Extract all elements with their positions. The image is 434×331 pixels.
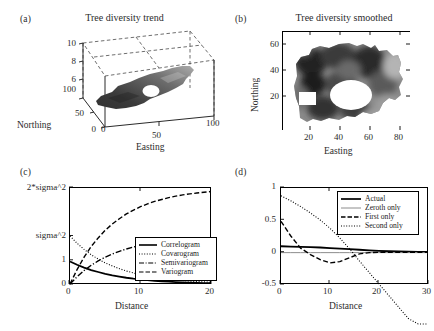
panel-b-heatmap: [283, 32, 410, 130]
legend-label: Zeroth only: [365, 203, 401, 212]
panel-b-title: Tree diversity smoothed: [269, 12, 419, 23]
panel-b-nodata-ellipse: [330, 80, 372, 110]
panel-c-legend: Correlogram Covarogram Semivariogram Var…: [135, 237, 217, 281]
panel-c-xtick-0: 0: [66, 286, 71, 296]
panel-a-ylabel: Northing: [17, 120, 51, 130]
panel-b-nodata-square: [299, 92, 316, 105]
panel-d-label: (d): [235, 167, 247, 177]
panel-d-xtick-0: 0: [277, 286, 282, 296]
panel-d-ytick-0: 0: [243, 246, 276, 256]
legend-item-actual: Actual: [340, 194, 415, 203]
panel-a-3d-plot: [0, 0, 217, 165]
panel-b-ytick-60: 60: [255, 39, 279, 49]
panel-b-ylabel: Northing: [250, 78, 260, 112]
legend-label: Semivariogram: [161, 258, 208, 267]
panel-d-xtick-20: 20: [372, 286, 381, 296]
panel-d-ytick-1: 1: [243, 181, 276, 191]
panel-d: (d) 1 0.5 0 -0.5 0 10 20 30 Distance: [217, 165, 434, 331]
legend-line-dashed: [340, 213, 362, 221]
legend-item-second-only: Second only: [340, 221, 415, 230]
panel-a-xtick-50: 50: [152, 130, 161, 140]
legend-line-solid-thin: [340, 204, 362, 212]
legend-label: Variogram: [161, 267, 193, 276]
panel-b-label: (b): [235, 14, 247, 24]
panel-b-ytick-40: 40: [255, 65, 279, 75]
legend-label: Second only: [365, 221, 403, 230]
panel-c-ytick-0: 0: [40, 278, 66, 288]
panel-d-xtick-30: 30: [422, 286, 431, 296]
panel-d-xtick-10: 10: [323, 286, 332, 296]
legend-label: Correlogram: [161, 240, 200, 249]
panel-a-xlabel: Easting: [136, 142, 165, 152]
panel-a-ztick-8: 8: [50, 56, 76, 66]
legend-line-solid: [340, 195, 362, 203]
panel-d-ytick--0.5: -0.5: [239, 278, 276, 288]
panel-b-plot-area: [282, 31, 410, 130]
legend-label: Actual: [365, 194, 385, 203]
legend-item-semivariogram: Semivariogram: [138, 258, 213, 267]
legend-item-first-only: First only: [340, 212, 415, 221]
panel-b-xlabel: Easting: [324, 146, 353, 156]
panel-d-ytick-0.5: 0.5: [243, 214, 276, 224]
panel-a-xtick-0: 0: [101, 124, 106, 134]
panel-c-ytick-1: 1: [40, 254, 66, 264]
panel-c-label: (c): [20, 167, 31, 177]
panel-b: (b) Tree diversity smoothed: [217, 0, 434, 165]
legend-label: Covarogram: [161, 249, 199, 258]
legend-item-zeroth-only: Zeroth only: [340, 203, 415, 212]
panel-a-ztick-10: 10: [50, 38, 76, 48]
legend-item-correlogram: Correlogram: [138, 240, 213, 249]
figure-canvas: (a) Tree diversity trend: [0, 0, 434, 331]
panel-c-ytick-2sigma2: 2*sigma^2: [2, 182, 66, 192]
legend-line-dashed: [138, 268, 158, 276]
panel-c-xlabel: Distance: [115, 301, 148, 311]
panel-b-xtick-20: 20: [304, 132, 313, 142]
panel-d-xlabel: Distance: [329, 301, 362, 311]
panel-a-ytick-0: 0: [72, 124, 96, 134]
legend-line-dotted: [138, 250, 158, 258]
panel-a-surface-hole: [143, 85, 160, 97]
panel-a: (a) Tree diversity trend: [0, 0, 217, 165]
panel-b-xtick-60: 60: [364, 132, 373, 142]
panel-a-ytick-100: 100: [48, 84, 76, 94]
legend-line-dotted: [340, 222, 362, 230]
legend-line-dashdot: [138, 259, 158, 267]
panel-c: (c) 2*sigma^2 sigma^2 1 0 0 10 20 Distan…: [0, 165, 217, 331]
panel-c-xtick-20: 20: [205, 286, 214, 296]
panel-b-xtick-40: 40: [334, 132, 343, 142]
panel-a-ytick-50: 50: [58, 108, 84, 118]
panel-d-legend: Actual Zeroth only First only Second onl…: [337, 191, 419, 235]
series-actual: [281, 246, 428, 252]
legend-line-solid: [138, 241, 158, 249]
panel-b-xtick-80: 80: [394, 132, 403, 142]
legend-label: First only: [365, 212, 394, 221]
panel-a-ztick-6: 6: [50, 74, 76, 84]
panel-c-ytick-sigma2: sigma^2: [2, 230, 66, 240]
panel-c-xtick-10: 10: [134, 286, 143, 296]
legend-item-variogram: Variogram: [138, 267, 213, 276]
legend-item-covarogram: Covarogram: [138, 249, 213, 258]
